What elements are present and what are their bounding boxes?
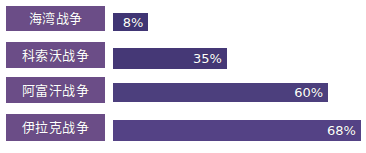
bar-value-label: 8% xyxy=(123,16,149,29)
category-label-text: 科索沃战争 xyxy=(22,49,90,62)
category-label-text: 阿富汗战争 xyxy=(22,84,90,97)
bar-fill: 8% xyxy=(113,13,148,31)
bar-track: 68% xyxy=(113,120,366,141)
bar-track: 8% xyxy=(113,13,366,31)
category-label-box: 伊拉克战争 xyxy=(6,114,105,141)
category-label-box: 阿富汗战争 xyxy=(6,77,105,103)
bar-value-label: 60% xyxy=(294,86,328,99)
category-label-box: 海湾战争 xyxy=(6,6,105,31)
bar-track: 60% xyxy=(113,83,366,102)
bar-fill: 68% xyxy=(113,120,361,141)
bar-value-label: 35% xyxy=(193,52,227,65)
bar-fill: 60% xyxy=(113,83,328,102)
category-label-text: 海湾战争 xyxy=(29,12,83,25)
bar-fill: 35% xyxy=(113,48,227,69)
bar-track: 35% xyxy=(113,48,366,69)
bar-value-label: 68% xyxy=(327,124,361,137)
category-label-box: 科索沃战争 xyxy=(6,42,105,68)
category-label-text: 伊拉克战争 xyxy=(22,121,90,134)
horizontal-bar-chart: 海湾战争 8% 科索沃战争 35% 阿富汗战争 60% 伊拉克战争 xyxy=(0,0,366,153)
